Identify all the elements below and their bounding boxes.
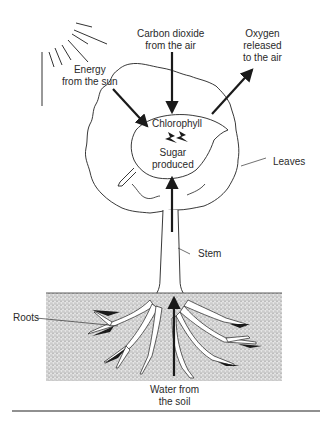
label-stem: Stem: [198, 248, 221, 260]
label-oxygen: Oxygen released to the air: [243, 28, 282, 64]
label-sugar-produced: Sugar produced: [152, 147, 194, 171]
energy-arrow: [113, 89, 147, 126]
label-leaves: Leaves: [273, 156, 305, 168]
label-chlorophyll: Chlorophyll: [152, 118, 202, 130]
stem: [150, 210, 190, 300]
label-roots: Roots: [13, 312, 39, 324]
label-energy: Energy from the sun: [62, 64, 118, 88]
label-water: Water from the soil: [150, 384, 199, 408]
label-carbon-dioxide: Carbon dioxide from the air: [137, 28, 204, 52]
oxygen-arrow: [212, 70, 252, 114]
